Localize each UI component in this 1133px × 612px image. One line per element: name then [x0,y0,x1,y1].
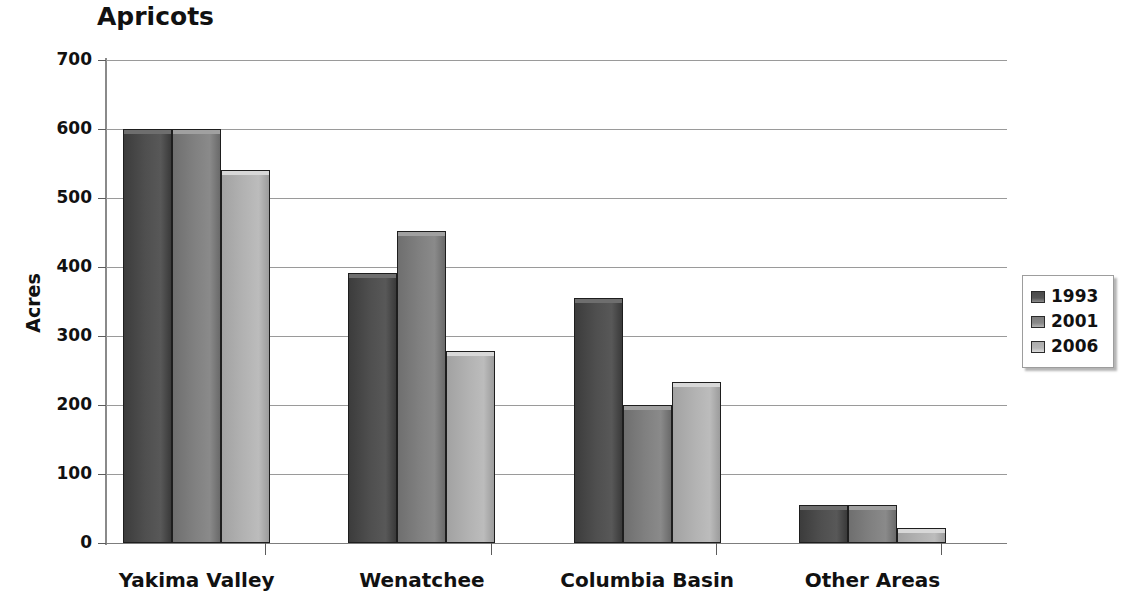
page-title: Apricots [97,2,214,31]
bar-top-highlight [673,383,720,387]
bar-top-highlight [222,171,269,175]
y-axis-tick-label: 0 [22,534,92,551]
bar-top-highlight [849,506,896,510]
bar[interactable] [897,528,946,543]
x-axis-tick-mark [716,543,717,555]
bar[interactable] [799,505,848,543]
legend-item[interactable]: 2006 [1031,334,1113,359]
bar-top-highlight [575,299,622,303]
bar-group [348,60,495,543]
x-axis-category-label: Yakima Valley [87,568,307,592]
y-axis-tick-label: 300 [22,327,92,344]
plot-area [106,60,1007,543]
bar[interactable] [172,129,221,543]
bar[interactable] [397,231,446,543]
y-axis-tick-label: 600 [22,120,92,137]
bar[interactable] [123,129,172,543]
legend: 1993 2001 2006 [1022,275,1114,368]
y-axis-tick-label: 400 [22,258,92,275]
bar-top-highlight [349,274,396,278]
legend-swatch-icon [1031,341,1045,353]
x-axis-tick-mark [491,543,492,555]
legend-item[interactable]: 2001 [1031,309,1113,334]
legend-swatch-icon [1031,291,1045,303]
bar-top-highlight [800,506,847,510]
bar-top-highlight [173,130,220,134]
bar-group [799,60,946,543]
bar[interactable] [348,273,397,543]
chart-screenshot: Apricots Acres 7006005004003002001000 Ya… [0,0,1133,612]
bar[interactable] [574,298,623,543]
bar-top-highlight [124,130,171,134]
y-axis-tick-label: 100 [22,465,92,482]
legend-swatch-icon [1031,316,1045,328]
bar[interactable] [623,405,672,543]
x-axis-category-label: Wenatchee [312,568,532,592]
legend-item-label: 2006 [1051,338,1098,355]
legend-item[interactable]: 1993 [1031,284,1113,309]
y-axis-tick-label: 200 [22,396,92,413]
legend-item-label: 2001 [1051,313,1098,330]
bar-top-highlight [398,232,445,236]
bar[interactable] [446,351,495,543]
bar-top-highlight [624,406,671,410]
bar-group [123,60,270,543]
bar-top-highlight [898,529,945,533]
y-axis-tick-label: 700 [22,51,92,68]
legend-item-label: 1993 [1051,288,1098,305]
bar-top-highlight [447,352,494,356]
bar[interactable] [672,382,721,543]
x-axis-tick-mark [941,543,942,555]
x-axis-category-label: Columbia Basin [537,568,757,592]
y-axis-tick-label: 500 [22,189,92,206]
bar[interactable] [221,170,270,543]
x-axis-tick-mark [265,543,266,555]
bar[interactable] [848,505,897,543]
gridline [106,543,1007,544]
bar-group [574,60,721,543]
x-axis-category-label: Other Areas [762,568,982,592]
